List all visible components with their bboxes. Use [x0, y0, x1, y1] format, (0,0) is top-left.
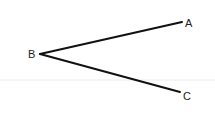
label-a: A	[185, 17, 193, 29]
label-c: C	[183, 90, 191, 102]
angle-diagram: B A C	[0, 0, 215, 114]
label-b: B	[28, 48, 35, 60]
ray-ba	[40, 22, 182, 54]
ray-bc	[40, 54, 180, 92]
